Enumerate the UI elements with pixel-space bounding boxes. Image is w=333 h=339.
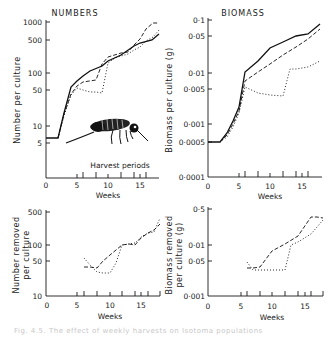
svg-text:1000: 1000 xyxy=(23,18,42,27)
svg-text:10: 10 xyxy=(267,302,277,311)
numbers-axes xyxy=(46,20,159,178)
svg-text:10: 10 xyxy=(32,122,42,131)
svg-text:5: 5 xyxy=(75,301,80,310)
svg-text:10: 10 xyxy=(103,181,113,190)
numbers-removed-harvest-b-line xyxy=(84,218,160,273)
svg-text:5: 5 xyxy=(237,182,242,191)
biomass-control-line xyxy=(208,24,320,142)
svg-text:0: 0 xyxy=(44,181,49,190)
numbers-xlabel: Weeks xyxy=(96,191,121,200)
svg-text:100: 100 xyxy=(28,241,43,250)
svg-text:15: 15 xyxy=(136,301,146,310)
numbers-removed-panel: Number removed per culture 500 100 50 10… xyxy=(12,208,160,321)
svg-text:15: 15 xyxy=(135,181,145,190)
biomass-harvest-a-line xyxy=(220,29,320,142)
numbers-yticks: 1000 500 100 50 10 5 xyxy=(23,18,42,148)
svg-text:100: 100 xyxy=(28,69,43,78)
svg-text:0·001: 0·001 xyxy=(184,292,206,301)
numbers-panel: NUMBERS Number per culture 1000 500 100 … xyxy=(13,9,159,200)
biomass-removed-harvest-a-line xyxy=(247,217,323,268)
svg-text:15: 15 xyxy=(297,182,307,191)
numbers-removed-harvest-a-line xyxy=(84,224,160,268)
svg-text:0·05: 0·05 xyxy=(188,257,205,266)
springtail-illustration xyxy=(66,117,148,144)
svg-text:10: 10 xyxy=(265,182,275,191)
numbers-removed-ylabel: Number removed xyxy=(12,216,21,293)
numbers-removed-ylabel-2: per culture xyxy=(22,230,31,279)
svg-text:5: 5 xyxy=(37,139,42,148)
numbers-xticks: 0 5 10 15 xyxy=(44,181,145,190)
biomass-removed-panel: Biomass removed per culture (g) 0·5 0·01… xyxy=(165,205,323,322)
svg-text:0·01: 0·01 xyxy=(188,241,205,250)
numbers-ylabel: Number per culture xyxy=(13,56,22,143)
biomass-removed-ylabel-2: per culture (g) xyxy=(175,222,184,287)
svg-text:5: 5 xyxy=(239,302,244,311)
svg-text:10: 10 xyxy=(32,292,42,301)
svg-text:10: 10 xyxy=(105,301,115,310)
harvest-periods-label: Harvest periods xyxy=(90,161,149,170)
svg-text:0·05: 0·05 xyxy=(188,32,205,41)
figure: NUMBERS Number per culture 1000 500 100 … xyxy=(0,0,333,339)
biomass-xlabel: Weeks xyxy=(258,192,283,201)
svg-text:0·5: 0·5 xyxy=(193,205,205,214)
svg-text:0·005: 0·005 xyxy=(184,85,206,94)
biomass-ylabel: Biomass per culture (g) xyxy=(165,47,174,152)
svg-text:15: 15 xyxy=(300,302,310,311)
svg-text:0: 0 xyxy=(206,182,211,191)
biomass-harvest-b-line xyxy=(220,61,320,142)
svg-text:50: 50 xyxy=(32,86,42,95)
svg-text:0: 0 xyxy=(45,301,50,310)
numbers-title: NUMBERS xyxy=(52,9,99,18)
svg-text:0·0001: 0·0001 xyxy=(179,173,205,182)
svg-text:0: 0 xyxy=(206,302,211,311)
svg-text:0·1: 0·1 xyxy=(193,16,205,25)
svg-text:500: 500 xyxy=(28,36,43,45)
svg-text:0·0005: 0·0005 xyxy=(179,138,205,147)
biomass-title: BIOMASS xyxy=(221,9,265,18)
biomass-removed-xlabel: Weeks xyxy=(260,313,285,322)
svg-text:500: 500 xyxy=(28,208,43,217)
biomass-removed-harvest-b-line xyxy=(247,220,323,270)
svg-text:0·01: 0·01 xyxy=(188,69,205,78)
svg-text:5: 5 xyxy=(75,181,80,190)
svg-text:0·001: 0·001 xyxy=(184,120,206,129)
biomass-removed-ylabel: Biomass removed xyxy=(165,215,174,294)
biomass-panel: BIOMASS Biomass per culture (g) 0·1 0·05… xyxy=(165,9,322,201)
svg-text:50: 50 xyxy=(32,257,42,266)
numbers-removed-xlabel: Weeks xyxy=(98,312,123,321)
figure-caption: Fig. 4.5. The effect of weekly harvests … xyxy=(14,327,314,335)
